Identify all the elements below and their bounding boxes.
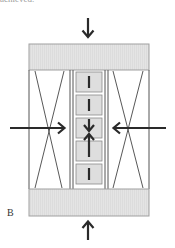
top-plate xyxy=(29,44,149,70)
bottom-plate xyxy=(29,189,149,216)
arrow-up-bottom-icon xyxy=(83,222,94,241)
arrow-right-left-icon xyxy=(10,123,65,134)
arrow-left-right-icon xyxy=(114,123,167,134)
panel-label: B xyxy=(7,207,14,218)
arrow-down-top-icon xyxy=(83,18,94,37)
compression-diagram xyxy=(0,0,175,248)
